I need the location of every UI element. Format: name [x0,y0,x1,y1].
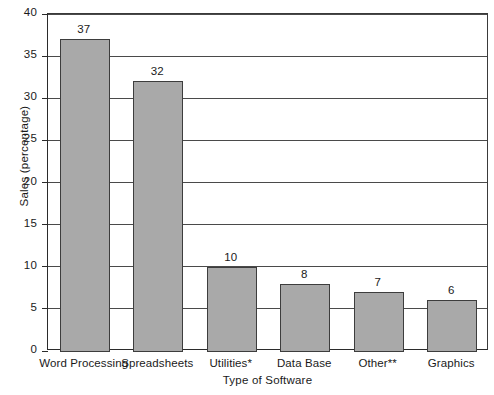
plot-area [47,13,488,350]
bar [280,284,330,352]
y-axis-tick [42,140,48,141]
bar-value-label: 8 [274,269,334,281]
gridline [48,56,487,57]
y-axis-tick-label: 35 [3,49,37,61]
gridline [48,140,487,141]
bar [133,81,183,352]
x-axis-title: Type of Software [47,374,488,386]
gridline [48,224,487,225]
y-axis-tick [42,266,48,267]
bar [60,39,110,352]
bar-value-label: 10 [201,252,261,264]
y-axis-tick [42,182,48,183]
y-axis-tick [42,98,48,99]
y-axis-tick [42,224,48,225]
y-axis-tick [42,14,48,15]
gridline [48,182,487,183]
y-axis-tick-label: 5 [3,302,37,314]
bar-value-label: 7 [348,277,408,289]
y-axis-tick-label: 40 [3,7,37,19]
gridline [48,14,487,15]
bar-chart: 0510152025303540 373210876 Word Processi… [0,0,494,395]
gridline [48,266,487,267]
bar [207,267,257,352]
y-axis-tick-label: 0 [3,344,37,356]
gridline [48,308,487,309]
bar [427,300,477,352]
y-axis-tick [42,308,48,309]
y-axis-tick [42,351,48,352]
y-axis-title: Sales (percentage) [18,86,30,226]
bar [354,292,404,352]
bar-value-label: 37 [54,24,114,36]
bar-value-label: 32 [127,66,187,78]
bar-value-label: 6 [421,285,481,297]
gridline [48,98,487,99]
y-axis-tick-label: 10 [3,260,37,272]
y-axis-tick [42,56,48,57]
x-axis-category-label: Graphics [391,357,494,370]
